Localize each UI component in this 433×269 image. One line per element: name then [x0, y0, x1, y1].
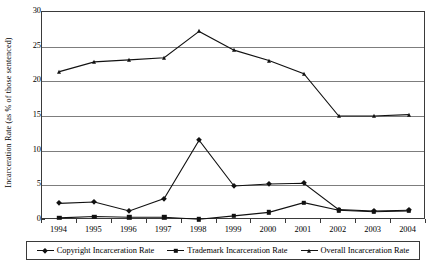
- chart-legend: Copyright Incarceration RateTrademark In…: [26, 241, 420, 260]
- legend-label: Trademark Incarceration Rate: [187, 246, 287, 255]
- data-point-marker: [302, 72, 306, 76]
- y-tick-label: 15: [21, 111, 41, 119]
- x-tick-mark: [250, 219, 251, 223]
- x-tick-label: 2004: [388, 225, 428, 234]
- data-point-marker: [372, 114, 376, 118]
- y-tick-label: 20: [21, 76, 41, 84]
- legend-label: Copyright Incarceration Rate: [57, 246, 155, 255]
- y-tick-label: 30: [21, 7, 41, 15]
- x-tick-mark: [285, 219, 286, 223]
- data-point-marker: [232, 214, 236, 218]
- legend-entry[interactable]: Trademark Incarceration Rate: [167, 246, 287, 255]
- series-line: [59, 140, 408, 211]
- y-axis-title: Incarceration Rate (as % of those senten…: [0, 0, 16, 225]
- data-point-marker: [407, 112, 411, 116]
- legend-marker-icon: [37, 246, 54, 255]
- y-axis-ticks: 051015202530: [15, 11, 41, 219]
- data-point-marker: [302, 200, 306, 204]
- data-point-marker: [371, 209, 375, 213]
- chart-figure: Incarceration Rate (as % of those senten…: [0, 0, 433, 269]
- data-point-marker: [337, 114, 341, 118]
- y-tick-label: 5: [21, 180, 41, 188]
- x-tick-mark: [390, 219, 391, 223]
- y-tick-label: 25: [21, 41, 41, 49]
- x-tick-mark: [216, 219, 217, 223]
- x-tick-mark: [355, 219, 356, 223]
- plot-inner: [42, 12, 424, 218]
- y-axis-title-text: Incarceration Rate (as % of those senten…: [4, 37, 13, 187]
- legend-entry[interactable]: Copyright Incarceration Rate: [37, 246, 155, 255]
- data-point-marker: [267, 210, 271, 214]
- plot-area: [41, 11, 425, 219]
- data-point-marker: [232, 48, 236, 52]
- data-point-marker: [127, 58, 131, 62]
- legend-marker-icon: [167, 246, 184, 255]
- legend-marker-icon: [301, 246, 318, 255]
- x-tick-mark: [41, 219, 42, 223]
- y-tick-label: 0: [21, 215, 41, 223]
- legend-label: Overall Incarceration Rate: [321, 246, 410, 255]
- x-tick-mark: [146, 219, 147, 223]
- legend-entry[interactable]: Overall Incarceration Rate: [301, 246, 410, 255]
- x-tick-mark: [320, 219, 321, 223]
- data-point-marker: [57, 69, 61, 73]
- data-point-marker: [197, 29, 201, 33]
- data-point-marker: [162, 56, 166, 60]
- x-axis-ticks: 1994199519961997199819992000200120022003…: [41, 219, 425, 241]
- x-tick-mark: [181, 219, 182, 223]
- data-point-marker: [337, 208, 341, 212]
- x-tick-mark: [76, 219, 77, 223]
- data-point-marker: [406, 209, 410, 213]
- data-point-marker: [92, 60, 96, 64]
- x-tick-mark: [111, 219, 112, 223]
- data-point-marker: [267, 58, 271, 62]
- x-tick-mark: [425, 219, 426, 223]
- y-tick-label: 10: [21, 145, 41, 153]
- series-line: [59, 31, 408, 116]
